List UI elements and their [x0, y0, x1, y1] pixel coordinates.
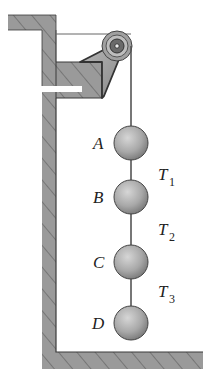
mass-D	[114, 306, 148, 340]
pulley-axle	[115, 44, 119, 48]
bracket-block	[56, 62, 102, 98]
svg-text:1: 1	[169, 175, 175, 189]
label-mass-C: C	[93, 253, 105, 272]
svg-text:2: 2	[169, 230, 175, 244]
label-mass-B: B	[93, 188, 104, 207]
label-mass-A: A	[92, 134, 104, 153]
mass-A	[114, 126, 148, 160]
tension-label-T2: T 2	[158, 220, 175, 244]
svg-text:T: T	[158, 165, 169, 184]
pulley-diagram: A B C D T 1 T 2 T 3	[0, 0, 203, 369]
tension-label-T3: T 3	[158, 282, 175, 306]
pulley	[102, 31, 132, 61]
svg-text:3: 3	[169, 292, 175, 306]
label-mass-D: D	[91, 314, 105, 333]
floor	[42, 352, 203, 369]
mass-C	[114, 245, 148, 279]
svg-text:T: T	[158, 282, 169, 301]
vertical-wall	[42, 15, 56, 369]
wall-slot	[42, 86, 82, 92]
svg-text:T: T	[158, 220, 169, 239]
tension-label-T1: T 1	[158, 165, 175, 189]
mass-B	[114, 180, 148, 214]
